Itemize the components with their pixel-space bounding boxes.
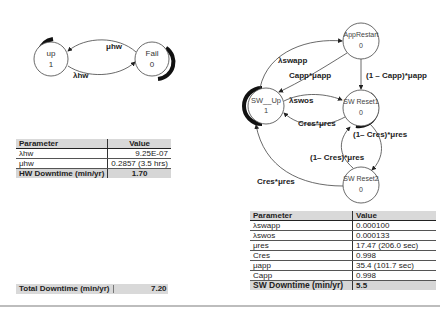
transition-label-muhw: μhw [106,42,122,51]
value-cell: 0.000100 [353,221,437,231]
total-downtime-bar: Total Downtime (min/yr) 7.20 [16,284,168,294]
value-cell: 35.4 (101.7 sec) [353,261,437,271]
transition-label-cres-mures-2: Cres*μres [257,177,295,186]
param-cell: μhw [16,159,108,169]
bottom-divider [0,305,440,307]
sw-downtime-row: SW Downtime (min/yr) 5.5 [250,281,436,291]
total-downtime-value: 7.20 [151,284,167,294]
param-cell: μres [250,241,353,251]
table-header-row: Parameter Value [250,211,436,221]
hw-downtime-row: HW Downtime (min/yr) 1.70 [16,169,171,179]
state-sw-reset2-value: 0 [341,186,381,193]
sw-parameter-table: Parameter Value λswapp 0.000100 λswos 0.… [250,211,436,290]
table-row: μapp 35.4 (101.7 sec) [250,261,436,271]
header-value: Value [353,211,437,221]
transition-label-lambdahw: λhw [73,71,89,80]
transition-label-lambdaswos: λswos [289,96,313,105]
table-row: λswapp 0.000100 [250,221,436,231]
state-fail-name: Fail [138,49,166,58]
transition-label-1-cres-mures-b: (1– Cres)*μres [310,153,364,162]
param-cell: λswos [250,231,353,241]
transition-label-capp-muapp: Capp*μapp [289,71,331,80]
header-parameter: Parameter [250,211,353,221]
total-downtime-label: Total Downtime (min/yr) [19,284,110,294]
state-sw-reset2-name: SW Reset2 [341,175,381,182]
sw-downtime-value: 5.5 [353,281,437,291]
table-row: μhw 0.2857 (3.5 hrs) [16,159,171,169]
hw-downtime-label: HW Downtime (min/yr) [16,169,108,179]
param-cell: μapp [250,261,353,271]
state-apprestart-value: 0 [343,42,379,49]
table-row: Cres 0.998 [250,251,436,261]
state-sw-reset1-value: 0 [341,109,381,116]
transition-label-lambdaswapp: λswapp [278,56,307,65]
transition-label-cres-mures-1: Cres*μres [298,119,336,128]
sw-state-sw-reset2 [343,167,379,203]
param-cell: λswapp [250,221,353,231]
value-cell: 0.998 [353,251,437,261]
param-cell: λhw [16,149,108,159]
hw-downtime-value: 1.70 [108,169,171,179]
value-cell: 0.2857 (3.5 hrs) [108,159,171,169]
state-apprestart-name: AppRestart [343,31,379,38]
header-parameter: Parameter [16,139,108,149]
value-cell: 9.25E-07 [108,149,171,159]
sw-downtime-label: SW Downtime (min/yr) [250,281,353,291]
param-cell: Capp [250,271,353,281]
transition-label-1-cres-mures-a: (1– Cres)*μres [353,130,407,139]
state-sw-up-name: SW__Up [248,96,284,105]
hw-parameter-table: Parameter Value λhw 9.25E-07 μhw 0.2857 … [16,139,171,178]
table-row: μres 17.47 (206.0 sec) [250,241,436,251]
table-row: λhw 9.25E-07 [16,149,171,159]
value-cell: 0.000133 [353,231,437,241]
state-up-value: 1 [38,60,64,69]
value-cell: 17.47 (206.0 sec) [353,241,437,251]
table-row: Capp 0.998 [250,271,436,281]
param-cell: Cres [250,251,353,261]
state-fail-value: 0 [138,60,166,69]
table-row: λswos 0.000133 [250,231,436,241]
state-up-name: up [38,49,64,58]
transition-label-1-capp-muapp: (1 – Capp)*μapp [366,71,427,80]
sw-state-apprestart [343,23,379,59]
value-cell: 0.998 [353,271,437,281]
table-header-row: Parameter Value [16,139,171,149]
divider [113,285,114,293]
header-value: Value [108,139,171,149]
state-sw-up-value: 1 [248,106,284,115]
state-sw-reset1-name: SW Reset1 [341,98,381,105]
